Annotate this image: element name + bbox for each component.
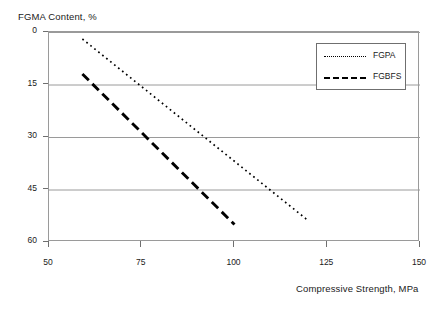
y-tick-label: 45: [9, 183, 37, 193]
x-tick-mark: [140, 241, 141, 247]
series-line-fgpa: [82, 39, 308, 221]
x-tick-label: 150: [399, 257, 439, 267]
y-tick-mark: [43, 83, 48, 84]
x-tick-label: 100: [214, 257, 254, 267]
y-tick-mark: [43, 136, 48, 137]
x-tick-mark: [233, 241, 234, 247]
chart-figure: FGMA Content, % 6045301505075100125150 F…: [0, 0, 448, 309]
y-tick-label: 60: [9, 235, 37, 245]
legend-label-fgpa: FGPA: [373, 50, 396, 60]
legend-swatch-dotted-icon: [324, 56, 366, 57]
x-tick-mark: [419, 241, 420, 247]
x-tick-mark: [326, 241, 327, 247]
legend-swatch-dashed-icon: [324, 77, 366, 79]
chart-legend: FGPA FGBFS: [316, 43, 406, 90]
y-tick-label: 15: [9, 78, 37, 88]
x-tick-label: 125: [306, 257, 346, 267]
x-tick-label: 50: [28, 257, 68, 267]
x-tick-label: 75: [121, 257, 161, 267]
legend-label-fgbfs: FGBFS: [373, 71, 401, 81]
x-axis-title: Compressive Strength, MPa: [296, 283, 419, 294]
legend-entry-fgpa: FGPA: [317, 46, 405, 68]
x-tick-mark: [48, 241, 49, 247]
series-line-fgbfs: [82, 74, 234, 225]
y-tick-label: 30: [9, 130, 37, 140]
y-axis-title: FGMA Content, %: [18, 11, 97, 22]
legend-entry-fgbfs: FGBFS: [317, 67, 405, 89]
y-tick-mark: [43, 31, 48, 32]
y-tick-label: 0: [9, 25, 37, 35]
y-tick-mark: [43, 188, 48, 189]
